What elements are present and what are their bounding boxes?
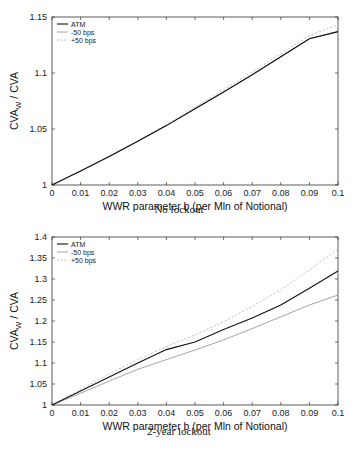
x-tick-label: 0.08	[272, 408, 290, 418]
legend-label: -50 bps	[71, 29, 95, 37]
y-tick-label: 1.1	[34, 68, 47, 78]
x-tick-label: 0.04	[158, 408, 176, 418]
x-tick-label: 0	[49, 188, 54, 198]
x-tick-label: 0.1	[332, 188, 345, 198]
x-tick-label: 0.01	[72, 408, 90, 418]
y-tick-label: 1.25	[29, 295, 47, 305]
series-line--50-bps	[52, 249, 338, 405]
y-tick-label: 1.1	[34, 358, 47, 368]
x-tick-label: 0.09	[301, 188, 319, 198]
x-tick-label: 0.08	[272, 188, 290, 198]
x-tick-label: 0.09	[301, 408, 319, 418]
legend-label: ATM	[71, 241, 85, 248]
x-tick-label: 0.06	[215, 188, 233, 198]
x-tick-label: 0.07	[243, 188, 261, 198]
y-tick-label: 1.05	[29, 124, 47, 134]
legend-label: -50 bps	[71, 249, 95, 257]
line-chart-no-lockout: 00.010.020.030.040.050.060.070.080.090.1…	[0, 0, 358, 225]
y-tick-label: 1.05	[29, 379, 47, 389]
series-line-atm	[52, 271, 338, 405]
x-tick-label: 0.01	[72, 188, 90, 198]
x-tick-label: 0	[49, 408, 54, 418]
x-tick-label: 0.02	[100, 188, 118, 198]
chart-panel-2-year-lockout: 00.010.020.030.040.050.060.070.080.090.1…	[0, 220, 358, 450]
y-tick-label: 1.2	[34, 316, 47, 326]
caption-no-lockout: No lockout	[0, 203, 358, 215]
y-axis-title: CVAW / CVA	[8, 72, 23, 130]
y-axis-title: CVAW / CVA	[8, 292, 23, 350]
series-line--50-bps	[52, 25, 338, 185]
caption-2-year-lockout: 2-year lockout	[0, 425, 358, 437]
x-tick-label: 0.07	[243, 408, 261, 418]
x-tick-label: 0.06	[215, 408, 233, 418]
legend: ATM-50 bps+50 bps	[57, 21, 97, 45]
series-line--50-bps	[52, 295, 338, 405]
x-tick-label: 0.05	[186, 408, 204, 418]
x-tick-label: 0.1	[332, 408, 345, 418]
x-tick-label: 0.04	[158, 188, 176, 198]
y-tick-label: 1.35	[29, 253, 47, 263]
line-chart-2-year-lockout: 00.010.020.030.040.050.060.070.080.090.1…	[0, 220, 358, 450]
y-tick-label: 1.4	[34, 232, 47, 242]
legend-label: +50 bps	[71, 37, 97, 45]
y-tick-label: 1	[42, 400, 47, 410]
chart-panel-no-lockout: 00.010.020.030.040.050.060.070.080.090.1…	[0, 0, 358, 225]
y-tick-label: 1.3	[34, 274, 47, 284]
y-tick-label: 1	[42, 180, 47, 190]
x-tick-label: 0.03	[129, 188, 147, 198]
legend-label: +50 bps	[71, 257, 97, 265]
x-tick-label: 0.03	[129, 408, 147, 418]
legend: ATM-50 bps+50 bps	[57, 241, 97, 265]
y-tick-label: 1.15	[29, 12, 47, 22]
legend-label: ATM	[71, 21, 85, 28]
x-tick-label: 0.02	[100, 408, 118, 418]
series-line-atm	[52, 32, 338, 185]
x-tick-label: 0.05	[186, 188, 204, 198]
y-tick-label: 1.15	[29, 337, 47, 347]
